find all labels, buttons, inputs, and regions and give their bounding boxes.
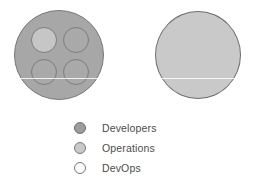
developers-group-circle	[14, 10, 104, 100]
legend: Developers Operations DevOps	[74, 118, 234, 178]
legend-swatch-developers-icon	[74, 122, 86, 134]
devops-inner-circle-top-right	[63, 27, 89, 53]
devops-inner-circle-bottom-right	[63, 59, 89, 85]
legend-label-devops: DevOps	[102, 163, 141, 174]
devops-diagram: Developers Operations DevOps	[0, 0, 254, 195]
devops-inner-circle-bottom-left	[31, 59, 57, 85]
legend-item-operations: Operations	[74, 138, 234, 158]
legend-swatch-operations-icon	[74, 142, 86, 154]
operations-group-circle	[155, 11, 241, 99]
legend-item-devops: DevOps	[74, 158, 234, 178]
legend-label-developers: Developers	[102, 123, 157, 134]
legend-item-developers: Developers	[74, 118, 234, 138]
legend-label-operations: Operations	[102, 143, 155, 154]
devops-inner-circle-top-left	[31, 27, 57, 53]
legend-swatch-devops-icon	[74, 162, 86, 174]
diagram-shapes-area	[0, 0, 254, 112]
